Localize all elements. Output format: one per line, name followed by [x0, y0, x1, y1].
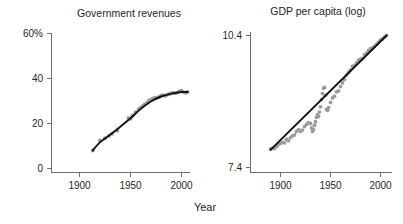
- data-point: [327, 106, 331, 110]
- ytick-label-60: 60%: [23, 28, 43, 39]
- panel-title-left: Government revenues: [77, 7, 181, 19]
- panel-gdp-per-capita: GDP per capita (log) 10.4 7.4 1900 1950 …: [223, 5, 393, 191]
- ytick-label-10-4: 10.4: [223, 30, 243, 41]
- data-point: [337, 89, 341, 93]
- data-point: [323, 86, 327, 90]
- data-point: [313, 123, 317, 127]
- xtick-label-1900: 1900: [68, 180, 91, 191]
- data-point: [341, 81, 345, 85]
- scatter-points-left: [91, 89, 190, 153]
- ytick-label-20: 20: [32, 118, 44, 129]
- data-point: [312, 128, 316, 132]
- axis-spine-right: [251, 32, 393, 173]
- xtick-label-right-1900: 1900: [269, 180, 292, 191]
- data-point: [314, 120, 318, 124]
- chart-svg: Government revenues 60% 40 20 0 1900 195…: [0, 0, 403, 224]
- figure-container: Government revenues 60% 40 20 0 1900 195…: [0, 0, 403, 224]
- data-point: [319, 105, 323, 109]
- xtick-label-1950: 1950: [119, 180, 142, 191]
- xtick-label-right-2000: 2000: [369, 180, 392, 191]
- data-point: [309, 122, 313, 126]
- axis-spine-left: [52, 33, 191, 173]
- xtick-label-right-1950: 1950: [319, 180, 342, 191]
- data-point: [333, 94, 337, 98]
- ytick-label-0: 0: [37, 163, 43, 174]
- data-point: [317, 115, 321, 119]
- panel-government-revenues: Government revenues 60% 40 20 0 1900 195…: [23, 7, 193, 191]
- panel-title-right: GDP per capita (log): [270, 5, 366, 17]
- ytick-label-7-4: 7.4: [228, 162, 242, 173]
- xtick-label-2000: 2000: [170, 180, 193, 191]
- data-point: [301, 128, 305, 132]
- data-point: [318, 110, 322, 114]
- data-point: [293, 133, 297, 137]
- data-point: [329, 100, 333, 104]
- trend-curve-left: [93, 92, 188, 151]
- data-point: [283, 141, 287, 145]
- ytick-label-40: 40: [32, 73, 44, 84]
- trend-line-right: [271, 36, 387, 150]
- shared-axis-label-year: Year: [194, 201, 217, 213]
- data-point: [339, 85, 343, 89]
